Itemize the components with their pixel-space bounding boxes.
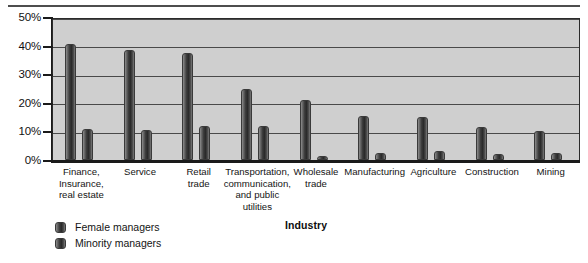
bar-female [182, 53, 193, 160]
bar-group [358, 19, 405, 160]
bar-group [124, 19, 171, 160]
y-axis-labels: 50%40%30%20%10%0% [0, 0, 41, 263]
legend-swatch-icon [55, 222, 66, 233]
legend-swatch-icon [55, 238, 66, 249]
bar-minority [199, 126, 210, 160]
plot-area [52, 18, 580, 161]
bar-minority [258, 126, 269, 160]
bar-group [65, 19, 112, 160]
bar-group [300, 19, 347, 160]
x-axis-tick-labels: Finance,Insurance,real estateServiceReta… [52, 166, 580, 214]
top-divider-rule [8, 5, 580, 7]
legend-item-label: Female managers [75, 221, 160, 233]
y-axis-tick-label: 0% [1, 155, 41, 167]
x-axis-tick-label-line: utilities [243, 201, 272, 212]
x-axis-title: Industry [285, 219, 327, 231]
bar-female [241, 89, 252, 161]
y-axis-tick [43, 17, 53, 19]
x-axis-tick-label-line: and public [235, 189, 279, 200]
bar-female [417, 117, 428, 160]
x-axis-tick-label-line: Agriculture [410, 166, 456, 177]
legend-item-label: Minority managers [75, 237, 161, 249]
x-axis-tick-label-line: Wholesale [294, 166, 339, 177]
y-axis-tick-label: 40% [1, 41, 41, 53]
legend-item: Female managers [55, 219, 265, 235]
y-axis-tick [43, 103, 53, 105]
chart-legend: Female managersMinority managers [55, 219, 265, 251]
x-axis-tick-label-line: Finance, [63, 166, 100, 177]
bar-minority [82, 129, 93, 160]
x-axis-tick-label-line: trade [305, 178, 327, 189]
y-axis-tick-label: 20% [1, 98, 41, 110]
bar-group [417, 19, 464, 160]
bar-minority [375, 153, 386, 160]
bar-female [358, 116, 369, 160]
bar-female [534, 131, 545, 160]
bar-female [65, 44, 76, 160]
y-axis-tick-label: 10% [1, 126, 41, 138]
x-axis-tick-label-line: trade [188, 178, 210, 189]
bar-minority [434, 151, 445, 160]
x-axis-tick-label-line: Service [124, 166, 156, 177]
bar-minority [551, 153, 562, 160]
bar-female [300, 100, 311, 160]
y-axis-tick [43, 46, 53, 48]
y-axis-tick [43, 131, 53, 133]
bar-female [476, 127, 487, 160]
bar-group [241, 19, 288, 160]
x-axis-tick-label-line: real estate [59, 189, 104, 200]
plot-inner [53, 19, 579, 160]
y-axis-tick-label: 50% [1, 12, 41, 24]
x-axis-tick-label-line: Retail [186, 166, 211, 177]
bar-group [476, 19, 523, 160]
x-axis-line [51, 160, 580, 163]
bar-minority [141, 130, 152, 160]
y-axis-tick [43, 74, 53, 76]
y-axis-tick [43, 160, 53, 162]
x-axis-tick-label-line: Mining [537, 166, 565, 177]
legend-item: Minority managers [55, 235, 265, 251]
bar-group [534, 19, 581, 160]
bar-group [182, 19, 229, 160]
bar-female [124, 50, 135, 160]
x-axis-tick-label: Mining [509, 166, 588, 178]
x-axis-tick-label-line: Insurance, [59, 178, 104, 189]
y-axis-tick-label: 30% [1, 69, 41, 81]
